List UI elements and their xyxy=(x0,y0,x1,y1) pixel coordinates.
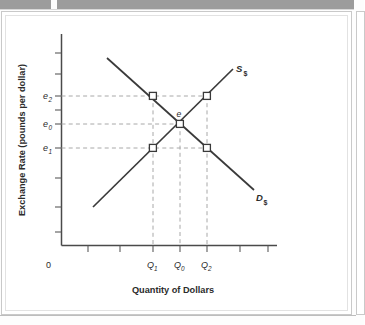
curve-label-demand: D $ xyxy=(256,192,268,207)
supply-curve-line xyxy=(93,69,233,207)
x-tick-q2-sub: 2 xyxy=(207,265,212,272)
x-tick-q1-sub: 1 xyxy=(154,265,158,272)
supply-curve-label-sub: $ xyxy=(244,70,248,78)
x-tick-label-q2: Q 2 xyxy=(201,260,212,272)
x-tick-q1-main: Q xyxy=(147,260,154,270)
x-tick-q0-sub: 0 xyxy=(181,265,185,272)
y-tick-e2-sub: 2 xyxy=(48,96,53,103)
y-tick-e1-main: e xyxy=(43,143,48,153)
guide-lines-group xyxy=(62,96,208,245)
point-demand-at-e2 xyxy=(149,92,156,99)
y-tick-label-e2: e 2 xyxy=(43,91,53,103)
y-tick-e2-main: e xyxy=(43,91,48,101)
x-tick-label-q1: Q 1 xyxy=(147,260,158,272)
x-tick-label-q0: Q 0 xyxy=(174,260,185,272)
axes-group xyxy=(62,34,278,246)
y-axis-ticks xyxy=(55,53,62,232)
demand-curve-label-sub: $ xyxy=(264,199,268,207)
equilibrium-point-label: e xyxy=(177,109,182,119)
y-tick-e1-sub: 1 xyxy=(49,148,53,155)
curve-label-supply: S $ xyxy=(236,63,248,78)
point-equilibrium xyxy=(176,120,183,127)
y-tick-label-e0: e 0 xyxy=(43,119,53,131)
demand-curve-label-main: D xyxy=(256,192,263,203)
y-tick-label-e1: e 1 xyxy=(43,143,53,155)
point-supply-at-e2 xyxy=(203,92,210,99)
x-axis-ticks xyxy=(88,246,268,253)
x-axis-title: Quantity of Dollars xyxy=(132,285,214,295)
point-demand-at-e1 xyxy=(203,144,210,151)
supply-curve-label-main: S xyxy=(236,63,243,74)
y-axis-title: Exchange Rate (pounds per dollar) xyxy=(17,64,27,216)
y-tick-e0-main: e xyxy=(43,119,48,129)
x-tick-q2-main: Q xyxy=(201,260,208,270)
x-tick-q0-main: Q xyxy=(174,260,181,270)
point-supply-at-e1 xyxy=(149,144,156,151)
y-tick-e0-sub: 0 xyxy=(49,124,53,131)
origin-label: 0 xyxy=(46,260,51,270)
